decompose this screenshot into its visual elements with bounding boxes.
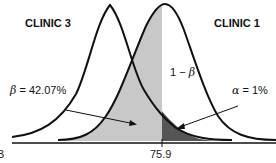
- alpha-label: α = 1%: [232, 84, 268, 97]
- beta-value: = 42.07%: [16, 84, 66, 96]
- power-beta-symbol: β: [189, 66, 195, 79]
- critical-value-label: 75.9: [150, 148, 171, 160]
- power-label: 1 − β: [170, 66, 195, 79]
- clinic-3-label: CLINIC 3: [25, 17, 71, 29]
- alpha-arrowhead: [176, 123, 185, 129]
- alpha-arrow: [180, 106, 238, 127]
- axis-edge-label: B: [0, 148, 4, 160]
- power-text: 1 −: [170, 66, 189, 78]
- clinic-1-label: CLINIC 1: [214, 17, 260, 29]
- alpha-value: = 1%: [239, 84, 267, 96]
- beta-label: β = 42.07%: [10, 84, 66, 97]
